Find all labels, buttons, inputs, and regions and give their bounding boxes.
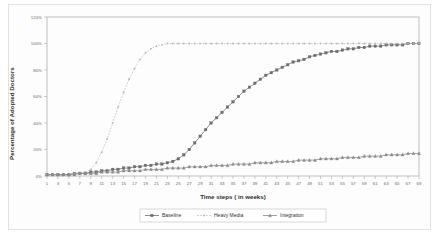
chart-page: 0%20%40%60%80%100%120% 13579111315171921… — [0, 0, 439, 234]
y-tick-label: 100% — [31, 41, 42, 46]
x-tick-label: 53 — [329, 181, 334, 186]
legend-label: Baseline — [162, 212, 181, 218]
x-tick-label: 23 — [165, 181, 170, 186]
x-tick-label: 15 — [121, 181, 126, 186]
plot-svg: 0%20%40%60%80%100%120% 13579111315171921… — [0, 0, 439, 234]
x-axis-ticks: 1357911131517192123252729313335373941434… — [46, 176, 422, 186]
x-tick-label: 61 — [373, 181, 378, 186]
x-tick-label: 9 — [90, 181, 93, 186]
y-tick-label: 0% — [36, 174, 42, 179]
x-tick-label: 19 — [143, 181, 148, 186]
x-tick-label: 63 — [384, 181, 389, 186]
legend: BaselineHeavy MediaIntegration — [140, 209, 326, 222]
line-chart: 0%20%40%60%80%100%120% 13579111315171921… — [0, 0, 439, 234]
x-tick-label: 1 — [46, 181, 49, 186]
x-tick-label: 37 — [241, 181, 246, 186]
y-axis-title: Percentage of Adopted Doctors — [8, 67, 15, 160]
y-tick-label: 20% — [33, 147, 42, 152]
x-tick-label: 33 — [220, 181, 225, 186]
x-tick-label: 39 — [252, 181, 257, 186]
x-tick-label: 65 — [395, 181, 400, 186]
series-group — [45, 42, 420, 176]
x-tick-label: 35 — [231, 181, 236, 186]
x-tick-label: 21 — [154, 181, 159, 186]
x-tick-label: 45 — [285, 181, 290, 186]
y-axis-ticks: 0%20%40%60%80%100%120% — [31, 15, 47, 179]
x-tick-label: 3 — [57, 181, 60, 186]
x-tick-label: 29 — [198, 181, 203, 186]
legend-label: Heavy Media — [214, 212, 243, 218]
x-tick-label: 67 — [406, 181, 411, 186]
x-tick-label: 25 — [176, 181, 181, 186]
x-tick-label: 51 — [318, 181, 323, 186]
legend-label: Integration — [280, 212, 304, 218]
x-axis-title: Time steps ( in weeks) — [200, 193, 266, 200]
y-tick-label: 60% — [33, 94, 42, 99]
x-tick-label: 69 — [417, 181, 422, 186]
x-tick-label: 31 — [209, 181, 214, 186]
y-tick-label: 40% — [33, 121, 42, 126]
x-tick-label: 43 — [274, 181, 279, 186]
x-tick-label: 55 — [340, 181, 345, 186]
x-tick-label: 57 — [351, 181, 356, 186]
x-tick-label: 59 — [362, 181, 367, 186]
x-tick-label: 7 — [79, 181, 82, 186]
x-tick-label: 41 — [263, 181, 268, 186]
x-tick-label: 5 — [68, 181, 71, 186]
x-tick-label: 17 — [132, 181, 137, 186]
y-tick-label: 120% — [31, 15, 42, 20]
plot-border — [47, 17, 419, 176]
y-tick-label: 80% — [33, 68, 42, 73]
x-tick-label: 27 — [187, 181, 192, 186]
series-integration — [45, 152, 420, 176]
x-tick-label: 49 — [307, 181, 312, 186]
x-tick-label: 11 — [99, 181, 104, 186]
x-tick-label: 13 — [110, 181, 115, 186]
x-tick-label: 47 — [296, 181, 301, 186]
